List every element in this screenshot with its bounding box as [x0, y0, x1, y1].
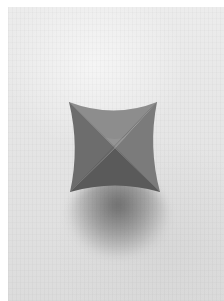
paper-star-object: [8, 7, 224, 301]
photograph: [8, 7, 224, 301]
